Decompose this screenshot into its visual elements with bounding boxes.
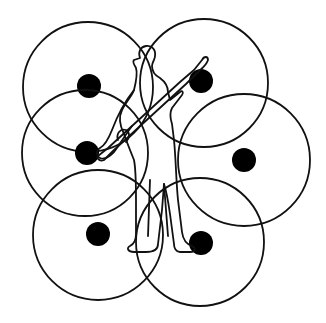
- center-dot: [189, 69, 213, 93]
- person-body-outline: [120, 46, 195, 252]
- coverage-circles: [22, 19, 310, 306]
- center-dot: [232, 148, 256, 172]
- coverage-zone-bottom-left: [33, 170, 163, 300]
- coverage-zone-middle-right: [178, 94, 310, 226]
- center-dot: [86, 222, 110, 246]
- coverage-zone-bottom-right: [136, 178, 264, 306]
- coverage-zone-middle-left: [22, 90, 148, 216]
- coverage-zone-top-right: [140, 19, 268, 147]
- coverage-diagram: [0, 0, 326, 323]
- center-dot: [77, 74, 101, 98]
- center-dot: [75, 141, 99, 165]
